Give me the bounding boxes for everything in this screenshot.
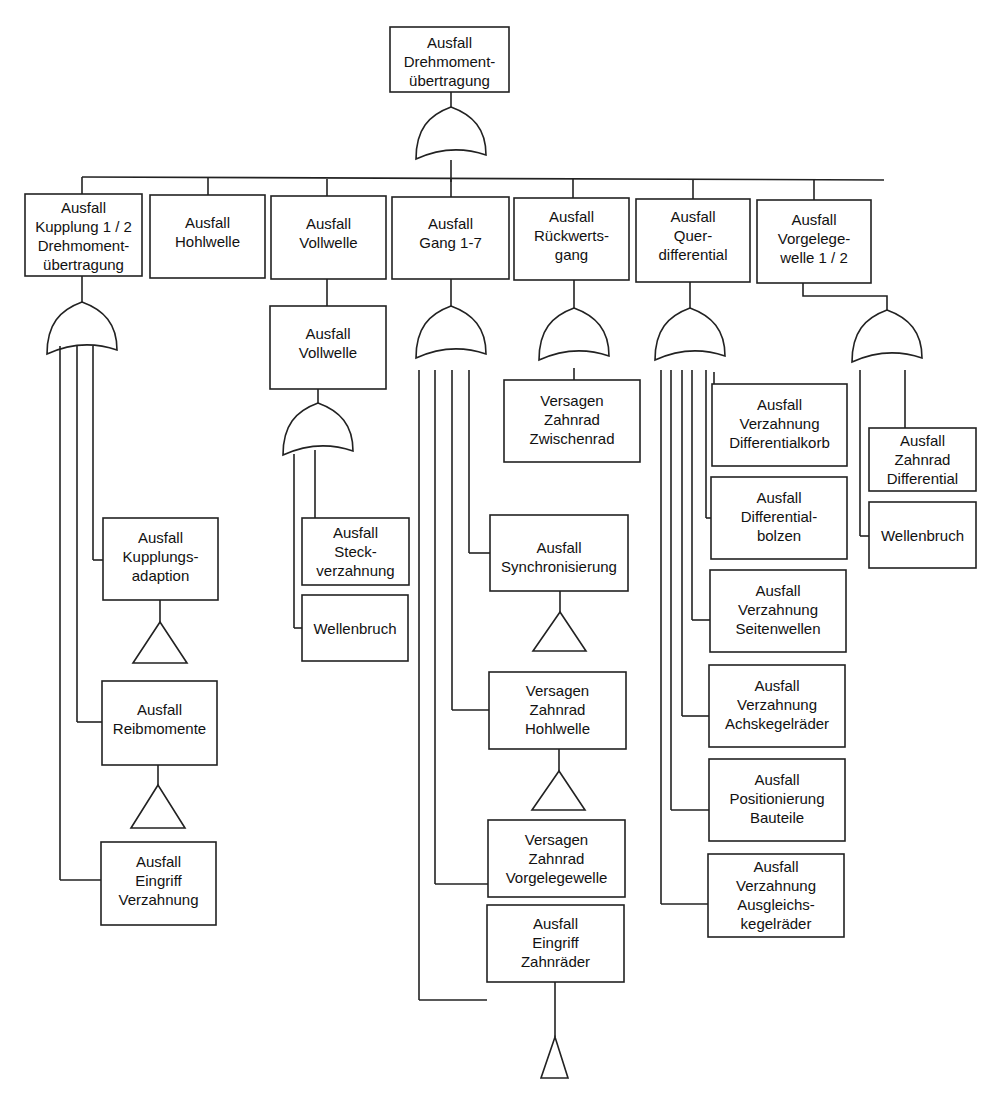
fault-tree-diagram: AusfallDrehmoment-übertragung AusfallKup…	[0, 0, 1001, 1104]
event-querdifferential[interactable]: AusfallQuer-differential	[636, 199, 750, 282]
event-differentialbolzen[interactable]: AusfallDifferential-bolzen	[711, 477, 847, 559]
or-gate-icon	[416, 107, 486, 159]
event-verzahnung-seitenwellen[interactable]: AusfallVerzahnungSeitenwellen	[710, 570, 846, 652]
event-wellenbruch-vorgelegewelle[interactable]: Wellenbruch	[869, 502, 976, 568]
event-eingriff-verzahnung[interactable]: AusfallEingriffVerzahnung	[101, 842, 216, 925]
svg-text:Wellenbruch: Wellenbruch	[313, 620, 396, 637]
event-steckverzahnung[interactable]: AusfallSteck-verzahnung	[302, 518, 409, 585]
transfer-triangle-icon	[532, 771, 585, 810]
or-gate-icon	[655, 308, 725, 360]
or-gate-icon	[283, 403, 353, 455]
event-vorgelegewelle[interactable]: AusfallVorgelege-welle 1 / 2	[757, 200, 871, 283]
or-gate-icon	[539, 308, 609, 360]
event-rueckwertsgang[interactable]: AusfallRückwerts-gang	[514, 198, 629, 280]
svg-text:Wellenbruch: Wellenbruch	[881, 527, 964, 544]
svg-text:VersagenZahnradHohlwelle: VersagenZahnradHohlwelle	[525, 682, 590, 737]
transfer-triangle-icon	[131, 785, 185, 828]
event-gang[interactable]: AusfallGang 1-7	[392, 197, 509, 279]
event-kupplungsadaption[interactable]: AusfallKupplungs-adaption	[103, 518, 218, 600]
event-verzahnung-differentialkorb[interactable]: AusfallVerzahnungDifferentialkorb	[712, 384, 847, 466]
event-vollwelle[interactable]: AusfallVollwelle	[271, 196, 386, 279]
or-gate-icon	[416, 306, 486, 358]
transfer-triangle-icon	[541, 1037, 568, 1078]
event-kupplung[interactable]: AusfallKupplung 1 / 2Drehmoment-übertrag…	[25, 194, 142, 276]
event-vollwelle-sub[interactable]: AusfallVollwelle	[270, 306, 386, 389]
transfer-triangle-icon	[133, 622, 187, 663]
event-positionierung-bauteile[interactable]: AusfallPositionierungBauteile	[709, 759, 845, 841]
event-verzahnung-achskegelraeder[interactable]: AusfallVerzahnungAchskegelräder	[709, 665, 845, 747]
event-zahnrad-differential[interactable]: AusfallZahnradDifferential	[869, 428, 976, 491]
top-event[interactable]: AusfallDrehmoment-übertragung	[390, 27, 509, 92]
transfer-triangle-icon	[533, 612, 586, 651]
event-reibmomente[interactable]: AusfallReibmomente	[102, 681, 217, 765]
or-gate-icon	[47, 302, 117, 354]
event-wellenbruch-vollwelle[interactable]: Wellenbruch	[302, 595, 408, 661]
event-versagen-zahnrad-zwischenrad[interactable]: VersagenZahnradZwischenrad	[504, 380, 640, 462]
event-verzahnung-ausgleichskegelraeder[interactable]: AusfallVerzahnungAusgleichs-kegelräder	[708, 854, 844, 937]
or-gate-icon	[852, 310, 922, 362]
event-versagen-zahnrad-vorgelegewelle[interactable]: VersagenZahnradVorgelegewelle	[488, 820, 625, 897]
event-synchronisierung[interactable]: AusfallSynchronisierung	[490, 515, 628, 591]
event-versagen-zahnrad-hohlwelle[interactable]: VersagenZahnradHohlwelle	[489, 672, 626, 749]
event-eingriff-zahnraeder[interactable]: AusfallEingriffZahnräder	[487, 905, 624, 982]
event-hohlwelle[interactable]: AusfallHohlwelle	[150, 195, 265, 278]
